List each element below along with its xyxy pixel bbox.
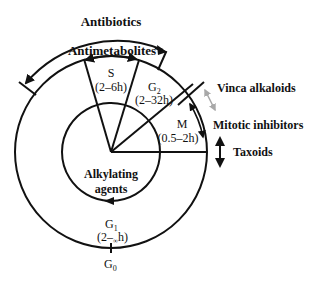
- inner-arc-arrowhead: [104, 197, 114, 205]
- label-alkylating-line2: agents: [95, 182, 128, 196]
- label-g1-duration: (2–∞h): [97, 230, 128, 245]
- antibiotics-left-tick: [19, 82, 36, 95]
- label-taxoids: Taxoids: [233, 145, 273, 159]
- label-antimetabolites: Antimetabolites: [68, 43, 156, 58]
- label-g0-phase: G0: [104, 257, 117, 273]
- label-s-phase: S: [108, 66, 115, 80]
- label-antibiotics: Antibiotics: [81, 14, 142, 29]
- label-m-phase: M: [177, 117, 188, 131]
- label-s-duration: (2–6h): [95, 80, 127, 94]
- vinca-double-arrow: [205, 90, 215, 110]
- label-g2-duration: (2–32h): [135, 93, 173, 107]
- label-alkylating-line1: Alkylating: [84, 167, 138, 181]
- label-vinca-alkaloids: Vinca alkaloids: [217, 81, 296, 95]
- label-mitotic-inhibitors: Mitotic inhibitors: [213, 118, 304, 132]
- cell-cycle-diagram: Antibiotics Antimetabolites S (2–6h) G2 …: [0, 0, 309, 284]
- label-m-duration: (0.5–2h): [158, 131, 199, 145]
